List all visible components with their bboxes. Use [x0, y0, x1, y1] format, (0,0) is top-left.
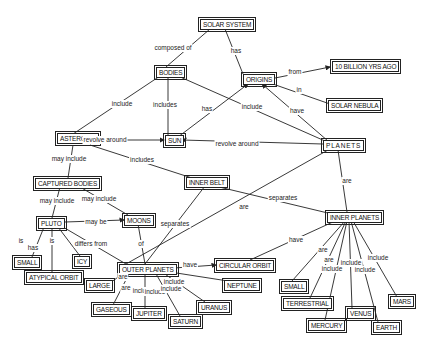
node-origins[interactable]: ORIGINS — [243, 74, 275, 85]
link-label: are — [323, 256, 334, 264]
node-bodies[interactable]: BODIES — [156, 67, 185, 78]
node-neptune[interactable]: NEPTUNE — [224, 280, 260, 291]
link-label: in — [295, 86, 302, 94]
link-label: includes — [152, 101, 178, 109]
link-label: have — [289, 107, 305, 115]
link-label: may be — [84, 218, 107, 226]
link-label: separates — [160, 220, 191, 228]
link-label: is — [18, 237, 25, 245]
node-saturn[interactable]: SATURN — [170, 316, 201, 327]
link-label: is — [49, 237, 56, 245]
node-solar-system[interactable]: SOLAR SYSTEM — [200, 19, 254, 30]
node-atypical-orbit[interactable]: ATYPICAL ORBIT — [26, 272, 82, 283]
node-venus[interactable]: VENUS — [347, 308, 374, 319]
node-solar-nebula[interactable]: SOLAR NEBULA — [328, 100, 381, 111]
link-label: may include — [51, 155, 88, 163]
link-label: include — [367, 254, 390, 262]
link-label: separates — [268, 194, 299, 202]
link-label: has — [230, 47, 242, 55]
node-gaseous[interactable]: GASEOUS — [93, 304, 130, 315]
concept-map: SOLAR SYSTEM BODIES ORIGINS 10 BILLION Y… — [0, 0, 429, 346]
link-label: include — [354, 266, 377, 274]
node-circular-orbit[interactable]: CIRCULAR ORBIT — [216, 260, 274, 271]
link-label: are — [317, 246, 328, 254]
link-label: have — [182, 261, 198, 269]
node-small-pluto[interactable]: SMALL — [14, 257, 40, 268]
node-sun[interactable]: SUN — [165, 135, 184, 146]
link-label: include — [111, 100, 134, 108]
link-label: may include — [81, 195, 118, 203]
node-captured-bodies[interactable]: CAPTURED BODIES — [35, 178, 100, 189]
node-uranus[interactable]: URANUS — [198, 302, 230, 313]
connector-lines — [0, 0, 429, 346]
link-label: are — [238, 203, 249, 211]
node-large[interactable]: LARGE — [86, 280, 113, 291]
link-label: are — [117, 273, 128, 281]
node-jupiter[interactable]: JUPITER — [133, 308, 165, 319]
node-small-inner[interactable]: SMALL — [281, 281, 307, 292]
link-label: has — [27, 244, 39, 252]
node-moons[interactable]: MOONS — [124, 215, 154, 226]
link-label: have — [288, 236, 304, 244]
node-earth[interactable]: EARTH — [373, 322, 400, 333]
link-label: differs from — [74, 240, 108, 248]
link-label: include — [160, 285, 183, 293]
link-label: revolve around — [83, 136, 128, 144]
link-label: composed of — [153, 44, 192, 52]
link-label: may include — [39, 197, 76, 205]
link-label: revolve around — [215, 140, 260, 148]
node-inner-planets[interactable]: INNER PLANETS — [327, 212, 382, 223]
node-planets[interactable]: PLANETS — [323, 140, 364, 151]
node-10-billion-yrs-ago[interactable]: 10 BILLION YRS AGO — [332, 61, 399, 72]
node-pluto[interactable]: PLUTO — [38, 218, 65, 229]
node-mercury[interactable]: MERCURY — [308, 320, 345, 331]
node-terrestrial[interactable]: TERRESTRIAL — [283, 298, 332, 309]
link-label: are — [341, 177, 352, 185]
link-label: has — [201, 105, 213, 113]
node-inner-belt[interactable]: INNER BELT — [186, 177, 228, 188]
link-label: includes — [129, 156, 155, 164]
node-icy[interactable]: ICY — [74, 256, 90, 267]
node-mars[interactable]: MARS — [390, 296, 414, 307]
link-label: from — [288, 68, 303, 76]
link-label: of — [137, 240, 144, 248]
link-label: are — [120, 284, 131, 292]
link-label: include — [241, 103, 264, 111]
